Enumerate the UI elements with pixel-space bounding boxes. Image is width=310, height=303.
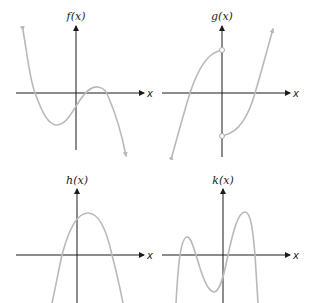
g-title: g(x): [211, 10, 233, 23]
g-curve-right: [225, 29, 273, 135]
g-curve-left: [172, 51, 219, 156]
g-open-circle-top: [220, 48, 225, 53]
h-title: h(x): [66, 174, 88, 187]
k-title: k(x): [212, 174, 233, 187]
h-curve: [52, 213, 123, 303]
panel-h: h(x) x: [16, 174, 153, 303]
k-x-label: x: [292, 250, 299, 261]
f-title: f(x): [66, 10, 86, 23]
panel-f: f(x) x: [16, 10, 153, 156]
panel-g: g(x) x: [162, 10, 299, 157]
g-x-label: x: [292, 88, 299, 99]
k-curve: [176, 212, 258, 303]
f-x-label: x: [146, 88, 153, 99]
g-open-circle-bottom: [220, 134, 225, 139]
function-graphs-figure: f(x) x g(x) x h(x) x k(x) x: [0, 0, 310, 303]
panel-k: k(x) x: [162, 174, 299, 303]
h-x-label: x: [146, 250, 153, 261]
